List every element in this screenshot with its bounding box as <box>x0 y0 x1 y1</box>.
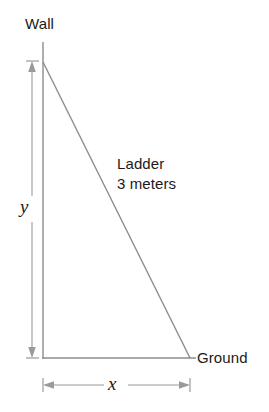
ladder-diagram: Wall Ground y x Ladder 3 meters <box>0 0 269 412</box>
arrow-down-icon <box>28 347 36 358</box>
ladder-name-label: Ladder <box>117 155 164 172</box>
ladder-length-label: 3 meters <box>117 176 176 191</box>
arrow-up-icon <box>28 61 36 72</box>
ladder-line <box>43 62 190 358</box>
ground-label: Ground <box>197 350 248 365</box>
arrow-left-icon <box>43 381 54 389</box>
vertical-leg-label: y <box>20 197 28 216</box>
horizontal-leg-label: x <box>108 374 116 393</box>
ladder-label-group: Ladder 3 meters <box>117 156 176 191</box>
arrow-right-icon <box>179 381 190 389</box>
wall-label: Wall <box>25 16 54 31</box>
